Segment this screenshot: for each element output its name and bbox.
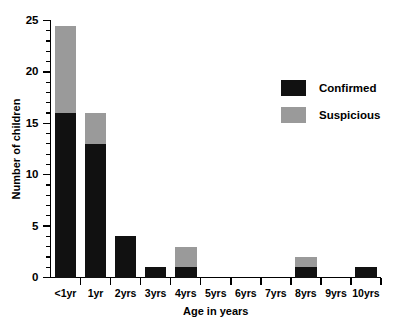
bar-segment <box>175 267 197 277</box>
y-axis: 0510152025 <box>26 14 51 283</box>
x-tick-label: 8yrs <box>295 287 317 299</box>
bar-segment <box>145 267 167 277</box>
x-tick-label: 5yrs <box>205 287 227 299</box>
bar-group <box>295 257 317 278</box>
bar-group <box>175 247 197 278</box>
bar-segment <box>355 267 377 277</box>
x-tick-label: 2yrs <box>115 287 137 299</box>
legend-swatch <box>281 80 306 96</box>
bar-group <box>85 113 107 277</box>
x-axis-title: Age in years <box>183 305 248 317</box>
legend-label: Confirmed <box>319 82 377 94</box>
bars-layer <box>55 26 377 278</box>
bar-segment <box>85 113 107 144</box>
bar-chart: 0510152025 <1yr1yr2yrs3yrs4yrs5yrs6yrs7y… <box>0 0 408 323</box>
bar-segment <box>55 26 77 113</box>
legend-swatch <box>281 107 306 123</box>
bar-segment <box>175 247 197 268</box>
y-tick-label: 15 <box>26 117 39 129</box>
x-tick-label: 6yrs <box>235 287 257 299</box>
y-tick-label: 20 <box>26 65 39 77</box>
bar-segment <box>295 257 317 267</box>
x-tick-label: 10yrs <box>352 287 380 299</box>
x-tick-label: <1yr <box>55 287 77 299</box>
y-tick-label: 25 <box>26 14 39 26</box>
x-axis: <1yr1yr2yrs3yrs4yrs5yrs6yrs7yrs8yrs9yrs1… <box>51 278 382 299</box>
legend-label: Suspicious <box>319 109 380 121</box>
bar-segment <box>85 144 107 278</box>
x-tick-label: 7yrs <box>265 287 287 299</box>
bar-group <box>115 236 137 277</box>
bar-group <box>355 267 377 277</box>
x-tick-label: 9yrs <box>325 287 347 299</box>
y-tick-label: 10 <box>26 168 39 180</box>
chart-canvas: 0510152025 <1yr1yr2yrs3yrs4yrs5yrs6yrs7y… <box>0 0 408 323</box>
x-tick-label: 1yr <box>88 287 104 299</box>
bar-segment <box>55 113 77 277</box>
y-axis-title: Number of children <box>10 98 22 199</box>
y-tick-label: 0 <box>32 271 38 283</box>
chart-legend: ConfirmedSuspicious <box>281 80 380 123</box>
bar-group <box>55 26 77 278</box>
y-tick-label: 5 <box>32 220 39 232</box>
bar-segment <box>115 236 137 277</box>
x-tick-label: 3yrs <box>145 287 167 299</box>
bar-group <box>145 267 167 277</box>
x-tick-label: 4yrs <box>175 287 197 299</box>
bar-segment <box>295 267 317 277</box>
